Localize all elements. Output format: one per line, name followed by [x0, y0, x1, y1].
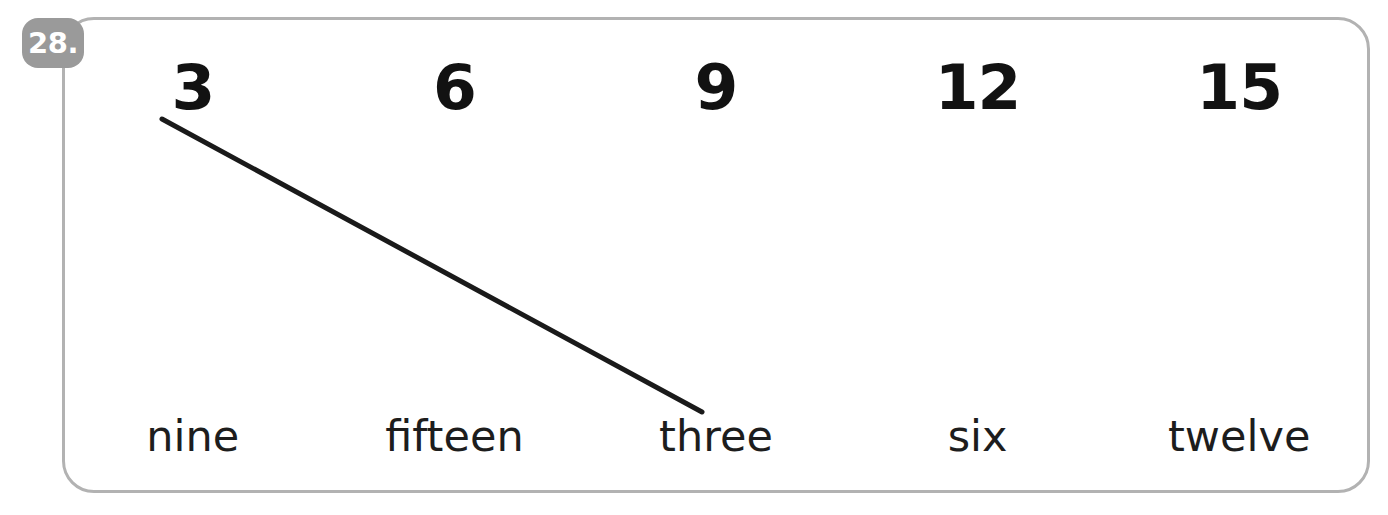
word-label: nine — [146, 415, 239, 458]
numeral-row: 3 6 9 12 15 — [62, 52, 1370, 122]
numeral-item-2[interactable]: 9 — [585, 52, 847, 122]
number-word-row: nine fifteen three six twelve — [62, 405, 1370, 467]
word-label: six — [948, 415, 1008, 458]
numeral-item-3[interactable]: 12 — [847, 52, 1109, 122]
word-label: twelve — [1168, 415, 1310, 458]
word-label: fifteen — [385, 415, 524, 458]
numeral-label: 12 — [935, 56, 1021, 119]
word-label: three — [659, 415, 773, 458]
numeral-label: 6 — [433, 56, 476, 119]
numeral-item-4[interactable]: 15 — [1108, 52, 1370, 122]
numeral-label: 3 — [171, 56, 214, 119]
word-item-2[interactable]: three — [585, 405, 847, 467]
word-item-3[interactable]: six — [847, 405, 1109, 467]
word-item-0[interactable]: nine — [62, 405, 324, 467]
numeral-label: 9 — [695, 56, 738, 119]
numeral-label: 15 — [1196, 56, 1282, 119]
question-number-label: 28. — [28, 29, 78, 58]
word-item-4[interactable]: twelve — [1108, 405, 1370, 467]
question-number-badge: 28. — [22, 18, 84, 68]
numeral-item-1[interactable]: 6 — [324, 52, 586, 122]
word-item-1[interactable]: fifteen — [324, 405, 586, 467]
numeral-item-0[interactable]: 3 — [62, 52, 324, 122]
worksheet-page: 28. 3 6 9 12 15 nine fifteen three six — [0, 0, 1388, 515]
